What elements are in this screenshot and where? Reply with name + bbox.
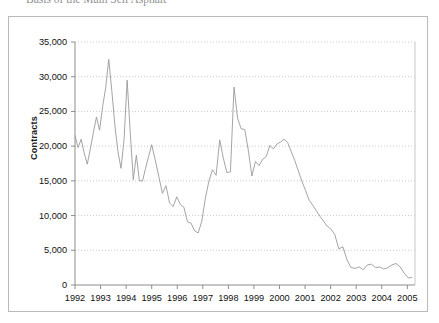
chart-plot-svg: [0, 0, 439, 323]
y-gridlines: [75, 42, 415, 250]
axis-lines: [75, 42, 415, 285]
data-series-line: [75, 59, 412, 278]
y-tick-marks: [71, 42, 75, 285]
line-chart: Contracts 35,00030,00025,00020,00015,000…: [0, 0, 439, 323]
x-tick-marks: [75, 285, 407, 289]
